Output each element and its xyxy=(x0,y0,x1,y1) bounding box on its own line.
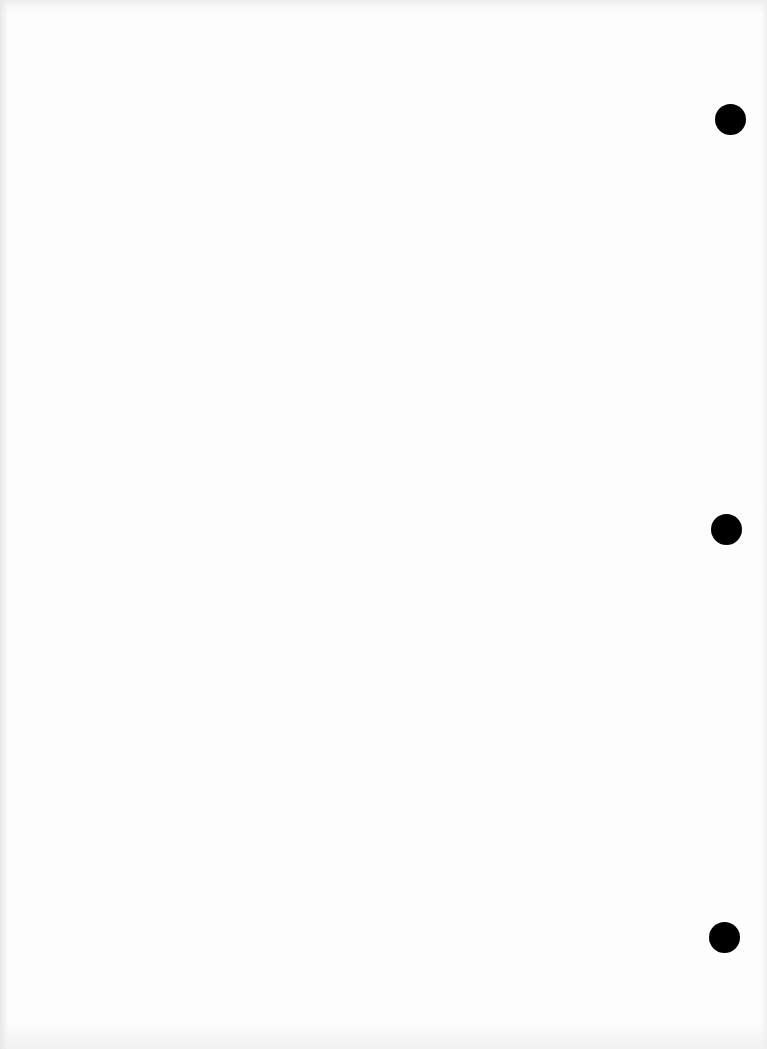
punch-hole-middle xyxy=(711,514,742,545)
blank-page xyxy=(0,0,767,1049)
punch-hole-top xyxy=(715,104,746,135)
page-right-edge-shadow xyxy=(761,0,767,1049)
punch-hole-bottom xyxy=(709,922,740,953)
page-left-edge-shadow xyxy=(0,0,8,1049)
